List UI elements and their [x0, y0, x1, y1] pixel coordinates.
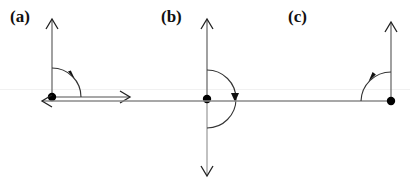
clockwise-arc-a	[52, 68, 81, 97]
origin-dot-c	[387, 97, 395, 105]
panel-b	[201, 19, 239, 176]
arc-arrowhead-icon	[67, 70, 75, 78]
panel-a	[46, 19, 130, 103]
origin-dot-b	[203, 95, 211, 103]
diagram-svg	[0, 0, 410, 180]
panel-c	[42, 22, 397, 107]
diagram-figure: (a) (b) (c)	[0, 0, 410, 180]
counterclockwise-arc-c	[361, 72, 391, 101]
clockwise-semicircle-arc-b	[207, 70, 236, 128]
